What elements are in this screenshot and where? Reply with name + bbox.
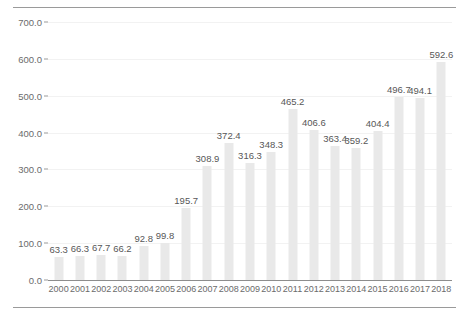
bar-slot: 66.3 bbox=[69, 22, 90, 281]
bar-value-label: 66.3 bbox=[71, 243, 90, 254]
bar-value-label: 316.3 bbox=[238, 150, 262, 161]
bar-slot: 359.2 bbox=[346, 22, 367, 281]
y-axis-tick-label: 100.0 bbox=[18, 238, 42, 249]
bar-slot: 592.6 bbox=[431, 22, 452, 281]
bar-value-label: 63.3 bbox=[49, 244, 68, 255]
bar-slot: 348.3 bbox=[261, 22, 282, 281]
bar[interactable] bbox=[352, 148, 361, 280]
x-axis-tick-label: 2010 bbox=[261, 284, 281, 294]
x-axis-tick-label: 2007 bbox=[197, 284, 217, 294]
bar-value-label: 406.6 bbox=[302, 117, 326, 128]
x-axis-tick-label: 2003 bbox=[112, 284, 132, 294]
bar[interactable] bbox=[160, 243, 169, 280]
bar[interactable] bbox=[203, 166, 212, 280]
x-axis-tick-label: 2004 bbox=[134, 284, 154, 294]
y-axis-tick-label: 200.0 bbox=[18, 201, 42, 212]
bar-slot: 363.4 bbox=[324, 22, 345, 281]
bar[interactable] bbox=[437, 62, 446, 280]
bar-slot: 496.7 bbox=[388, 22, 409, 281]
x-axis-tick-label: 2002 bbox=[91, 284, 111, 294]
bar-value-label: 99.8 bbox=[156, 230, 175, 241]
bar-slot: 372.4 bbox=[218, 22, 239, 281]
bar[interactable] bbox=[394, 97, 403, 280]
bar-value-label: 404.4 bbox=[366, 118, 390, 129]
bar-slot: 316.3 bbox=[239, 22, 260, 281]
bar-value-label: 67.7 bbox=[92, 242, 111, 253]
bar[interactable] bbox=[267, 152, 276, 280]
bar-slot: 67.7 bbox=[91, 22, 112, 281]
bar[interactable] bbox=[416, 98, 425, 280]
x-axis-tick-label: 2016 bbox=[389, 284, 409, 294]
bar-slot: 494.1 bbox=[409, 22, 430, 281]
bar-value-label: 494.1 bbox=[408, 85, 432, 96]
x-axis-tick-label: 2013 bbox=[325, 284, 345, 294]
bar-slot: 99.8 bbox=[154, 22, 175, 281]
bar-slot: 465.2 bbox=[282, 22, 303, 281]
y-axis-tick-label: 700.0 bbox=[18, 17, 42, 28]
bar[interactable] bbox=[182, 208, 191, 280]
bar-value-label: 348.3 bbox=[259, 139, 283, 150]
bar[interactable] bbox=[139, 246, 148, 280]
y-axis-tick-label: 600.0 bbox=[18, 53, 42, 64]
x-axis-tick-label: 2012 bbox=[304, 284, 324, 294]
bar-value-label: 195.7 bbox=[174, 195, 198, 206]
bar-value-label: 372.4 bbox=[217, 130, 241, 141]
bar-value-label: 363.4 bbox=[323, 133, 347, 144]
bar-slot: 66.2 bbox=[112, 22, 133, 281]
bar[interactable] bbox=[373, 131, 382, 280]
bar[interactable] bbox=[75, 256, 84, 280]
x-axis-tick-label: 2001 bbox=[70, 284, 90, 294]
bar[interactable] bbox=[288, 109, 297, 280]
bar-value-label: 359.2 bbox=[344, 135, 368, 146]
bottom-horizontal-rule bbox=[13, 307, 456, 308]
y-axis-tick-label: 500.0 bbox=[18, 90, 42, 101]
y-axis-tick-label: 0.0 bbox=[29, 275, 42, 286]
x-axis-tick-label: 2018 bbox=[431, 284, 451, 294]
bar-slot: 195.7 bbox=[176, 22, 197, 281]
x-axis-tick-label: 2005 bbox=[155, 284, 175, 294]
bar[interactable] bbox=[309, 130, 318, 280]
bar-value-label: 308.9 bbox=[196, 153, 220, 164]
plot-area: 0.0100.0200.0300.0400.0500.0600.0700.0 6… bbox=[48, 22, 452, 281]
x-axis-tick-label: 2009 bbox=[240, 284, 260, 294]
bar[interactable] bbox=[245, 163, 254, 280]
y-axis-tick-label: 300.0 bbox=[18, 164, 42, 175]
x-axis-tick-label: 2014 bbox=[346, 284, 366, 294]
bar-chart-figure: 0.0100.0200.0300.0400.0500.0600.0700.0 6… bbox=[0, 0, 469, 318]
bar[interactable] bbox=[331, 146, 340, 280]
x-axis-tick-label: 2011 bbox=[283, 284, 302, 294]
x-axis-tick-label: 2000 bbox=[49, 284, 69, 294]
bar-value-label: 465.2 bbox=[281, 96, 305, 107]
x-axis-tick-label: 2006 bbox=[176, 284, 196, 294]
bar-slot: 63.3 bbox=[48, 22, 69, 281]
bar-value-label: 66.2 bbox=[113, 243, 132, 254]
bar[interactable] bbox=[97, 255, 106, 280]
x-axis-tick-label: 2008 bbox=[219, 284, 239, 294]
bar-value-label: 92.8 bbox=[134, 233, 153, 244]
x-axis-tick-label: 2017 bbox=[410, 284, 430, 294]
bar-slot: 406.6 bbox=[303, 22, 324, 281]
top-horizontal-rule bbox=[13, 7, 456, 8]
bar-slot: 404.4 bbox=[367, 22, 388, 281]
bar[interactable] bbox=[118, 256, 127, 280]
y-axis-tick-label: 400.0 bbox=[18, 127, 42, 138]
bar-slot: 92.8 bbox=[133, 22, 154, 281]
bar-slot: 308.9 bbox=[197, 22, 218, 281]
bar[interactable] bbox=[224, 143, 233, 280]
x-axis-tick-label: 2015 bbox=[368, 284, 388, 294]
bar-value-label: 496.7 bbox=[387, 84, 411, 95]
bar[interactable] bbox=[54, 257, 63, 280]
bar-value-label: 592.6 bbox=[429, 49, 453, 60]
